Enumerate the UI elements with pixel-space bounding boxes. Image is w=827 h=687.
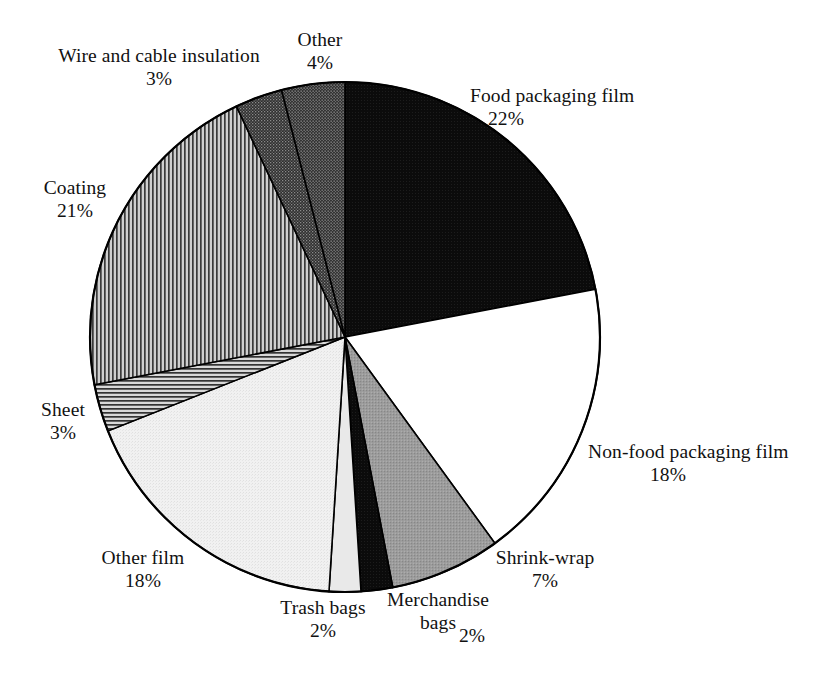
slice-label-food-packaging-film: Food packaging film 22% <box>470 84 760 130</box>
pie-chart: Food packaging film 22% Non-food packagi… <box>0 0 827 687</box>
slice-label-name: Coating <box>10 176 140 199</box>
slice-label-other: Other 4% <box>240 28 400 74</box>
slice-label-name: Sheet <box>8 398 118 421</box>
slice-label-value: 22% <box>470 107 760 130</box>
slice-label-name: Non-food packaging film <box>588 440 827 463</box>
slice-label-shrink-wrap: Shrink-wrap 7% <box>470 546 620 592</box>
slice-label-value: 4% <box>240 51 400 74</box>
slice-label-other-film: Other film 18% <box>58 546 228 592</box>
pie-slices <box>90 82 600 592</box>
slice-label-value: 21% <box>10 199 140 222</box>
slice-label-name: Shrink-wrap <box>470 546 620 569</box>
slice-label-sheet: Sheet 3% <box>8 398 118 444</box>
slice-label-value: 2% <box>248 619 398 642</box>
slice-label-name: Other <box>240 28 400 51</box>
slice-label-trash-bags: Trash bags 2% <box>248 596 398 642</box>
slice-label-coating: Coating 21% <box>10 176 140 222</box>
slice-label-value: 18% <box>58 569 228 592</box>
slice-label-name: Food packaging film <box>470 84 760 107</box>
slice-label-non-food-packaging-film: Non-food packaging film 18% <box>588 440 827 486</box>
slice-label-name: Other film <box>58 546 228 569</box>
slice-label-value: 3% <box>8 421 118 444</box>
slice-label-value: 18% <box>588 463 827 486</box>
slice-label-name: Trash bags <box>248 596 398 619</box>
